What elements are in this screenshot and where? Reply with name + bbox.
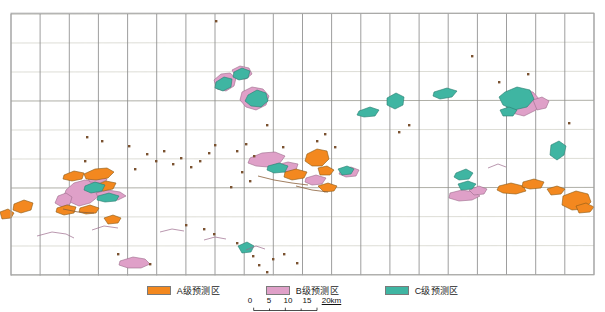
- map-scalebar: 0 5 10 15 20km: [248, 296, 354, 312]
- occurrence-point: [241, 171, 243, 173]
- occurrence-point: [283, 253, 285, 255]
- occurrence-point: [266, 271, 268, 273]
- occurrence-point: [199, 160, 201, 162]
- occurrence-point: [230, 186, 232, 188]
- occurrence-point: [180, 157, 182, 159]
- occurrence-point: [134, 168, 136, 170]
- occurrence-point: [149, 263, 151, 265]
- scale-tick-0: 0: [248, 296, 252, 305]
- occurrence-point: [324, 133, 326, 135]
- occurrence-point: [128, 145, 130, 147]
- occurrence-point: [146, 153, 148, 155]
- occurrence-point: [258, 264, 260, 266]
- scale-tick-5: 5: [267, 296, 271, 305]
- occurrence-point: [86, 136, 88, 138]
- scale-tick-15: 15: [303, 296, 312, 305]
- occurrence-point: [190, 166, 192, 168]
- occurrence-point: [398, 131, 400, 133]
- occurrence-point: [249, 180, 251, 182]
- scale-tick-20km: 20km: [322, 296, 342, 305]
- occurrence-point: [236, 150, 238, 152]
- scalebar-labels: 0 5 10 15 20km: [248, 296, 354, 305]
- occurrence-point: [408, 124, 410, 126]
- occurrence-point: [296, 262, 298, 264]
- occurrence-point: [498, 81, 500, 83]
- occurrence-point: [252, 255, 254, 257]
- occurrence-point: [155, 160, 157, 162]
- occurrence-point: [236, 242, 238, 244]
- occurrence-point: [215, 20, 217, 22]
- legend-entry-b: B级预测区: [266, 284, 339, 297]
- occurrence-point: [84, 160, 86, 162]
- occurrence-point: [282, 146, 284, 148]
- map-canvas: [0, 0, 605, 312]
- legend-label-a: A级预测区: [177, 284, 220, 297]
- occurrence-point: [203, 228, 205, 230]
- occurrence-point: [163, 150, 165, 152]
- occurrence-point: [185, 224, 187, 226]
- scale-tick-10: 10: [284, 296, 293, 305]
- occurrence-point: [334, 146, 336, 148]
- occurrence-point: [172, 163, 174, 165]
- legend-label-c: C级预测区: [415, 284, 459, 297]
- occurrence-point: [245, 143, 247, 145]
- occurrence-point: [213, 233, 215, 235]
- map-figure: A级预测区 B级预测区 C级预测区 0 5 10 15 20km: [0, 0, 605, 312]
- occurrence-point: [568, 122, 570, 124]
- legend-label-b: B级预测区: [296, 284, 339, 297]
- occurrence-point: [272, 258, 274, 260]
- occurrence-point: [117, 253, 119, 255]
- occurrence-point: [253, 155, 255, 157]
- legend-entry-a: A级预测区: [147, 284, 220, 297]
- legend-swatch-b: [266, 286, 290, 295]
- occurrence-point: [266, 124, 268, 126]
- occurrence-point: [101, 140, 103, 142]
- legend-swatch-a: [147, 286, 171, 295]
- occurrence-point: [208, 152, 210, 154]
- legend-swatch-c: [385, 286, 409, 295]
- grid-vertical-lines: [11, 13, 594, 275]
- occurrence-point: [214, 144, 216, 146]
- occurrence-point: [471, 55, 473, 57]
- occurrence-point: [316, 140, 318, 142]
- occurrence-point: [527, 73, 529, 75]
- legend-entry-c: C级预测区: [385, 284, 459, 297]
- scalebar-graphic: [250, 307, 324, 312]
